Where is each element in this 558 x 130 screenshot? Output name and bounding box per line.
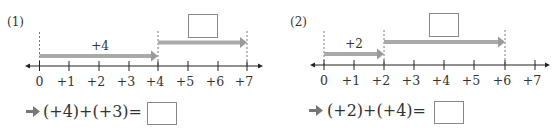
tick-label: +3 [117, 74, 135, 89]
first-jump-label: +4 [91, 39, 109, 53]
tick-label: +5 [176, 74, 194, 89]
answer-box-jump[interactable] [430, 14, 459, 37]
number-line-diagram: (1) +4 [0, 0, 558, 130]
left-arrowhead-icon [310, 63, 315, 68]
tick-label: +3 [402, 73, 420, 88]
first-jump-label: +2 [345, 37, 363, 51]
tick-label: +1 [57, 74, 75, 89]
tick-label: +7 [523, 73, 541, 88]
problem-label: (1) [7, 15, 24, 29]
tick-label: +1 [342, 73, 360, 88]
tick-label: +5 [462, 73, 480, 88]
second-jump-arrow [384, 37, 505, 48]
tick-label: 0 [36, 74, 44, 89]
equation: (+2)+(+4)= [327, 101, 426, 120]
tick-label: +6 [493, 73, 511, 88]
tick-label: +2 [87, 74, 105, 89]
problem-2: (2) +2 0 +1 +2 [290, 14, 550, 124]
arrow-right-icon [26, 106, 40, 117]
second-jump-arrow [158, 37, 247, 48]
tick-labels: 0 +1 +2 +3 +4 +5 +6 +7 [36, 74, 254, 89]
tick-label: +4 [432, 73, 450, 88]
tick-labels: 0 +1 +2 +3 +4 +5 +6 +7 [320, 73, 541, 88]
problem-1: (1) +4 [7, 15, 263, 125]
equation: (+4)+(+3)= [43, 102, 142, 121]
left-arrowhead-icon [25, 64, 30, 69]
tick-label: +6 [206, 74, 224, 89]
tick-label: +4 [146, 74, 164, 89]
answer-box-equation[interactable] [148, 103, 177, 125]
arrow-right-icon [309, 105, 323, 116]
tick-label: 0 [320, 73, 328, 88]
right-arrowhead-icon [258, 64, 263, 69]
answer-box-jump[interactable] [189, 15, 218, 38]
right-arrowhead-icon [545, 63, 550, 68]
tick-label: +7 [235, 74, 253, 89]
tick-label: +2 [372, 73, 390, 88]
problem-label: (2) [290, 15, 307, 29]
answer-box-equation[interactable] [435, 102, 464, 124]
